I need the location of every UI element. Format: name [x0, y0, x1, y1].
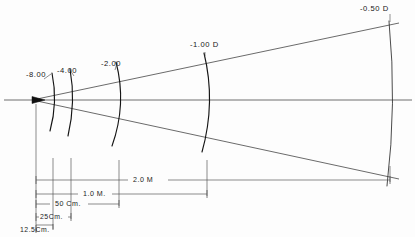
wavefront-arc-050d	[387, 21, 393, 186]
power-label-050d: -0.50 D	[360, 4, 389, 13]
extension-line-group	[36, 104, 390, 232]
wavefront-arc-8d	[50, 73, 55, 131]
vergence-diagram-svg: -8.00 -4.00 -2.00 -1.00 D -0.50 D 2.0 M	[0, 0, 415, 237]
dimension-row-1m: 1.0 M.	[36, 190, 207, 198]
dimension-label-1m: 1.0 M.	[83, 190, 106, 198]
dimension-label-125cm: 12.5Cm.	[20, 226, 50, 233]
dimension-row-2m: 2.0 M	[36, 176, 390, 184]
wavefront-arc-4d	[68, 69, 73, 136]
wavefront-arc-2d	[112, 62, 121, 146]
dimension-row-25cm: 25Cm.	[36, 213, 71, 221]
dimension-label-50cm: 50 Cm.	[55, 200, 81, 208]
power-label-4d: -4.00	[57, 66, 77, 75]
dimension-row-125cm: 12.5Cm.	[20, 224, 53, 233]
ray-upper	[37, 23, 399, 99]
dimension-row-50cm: 50 Cm.	[36, 200, 119, 208]
wavefront-group	[50, 21, 393, 186]
power-label-1d: -1.00 D	[190, 40, 219, 49]
dimension-label-25cm: 25Cm.	[40, 213, 63, 220]
ray-lower	[37, 101, 399, 179]
power-label-2d: -2.00	[101, 59, 121, 68]
dimension-label-2m: 2.0 M	[133, 176, 153, 184]
vergence-diagram-root: -8.00 -4.00 -2.00 -1.00 D -0.50 D 2.0 M	[0, 0, 415, 237]
power-label-8d: -8.00	[26, 70, 46, 79]
